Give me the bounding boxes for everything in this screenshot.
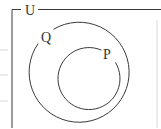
page-edge-artifacts: [0, 20, 157, 128]
set-p-label: P: [103, 47, 111, 62]
universal-set-frame: [12, 10, 161, 129]
universal-set-label: U: [25, 3, 35, 18]
set-q-label: Q: [41, 30, 51, 45]
venn-diagram: U Q P: [0, 0, 161, 128]
